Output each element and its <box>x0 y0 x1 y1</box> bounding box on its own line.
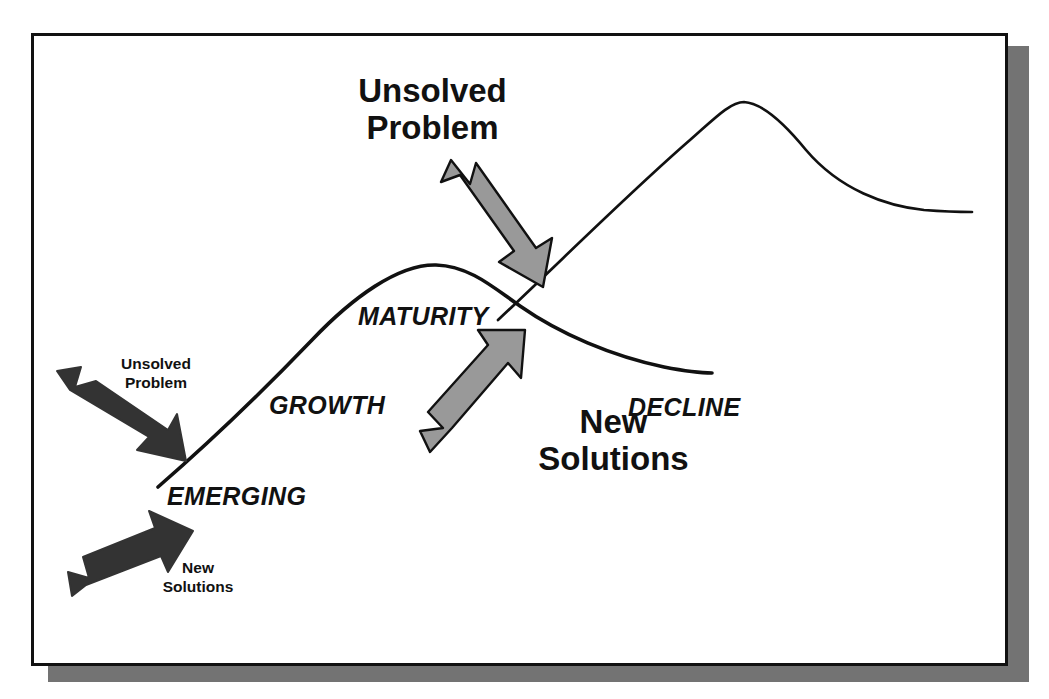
stage-label-decline: DECLINE <box>628 394 741 421</box>
callout-line-2: Solutions <box>138 578 258 597</box>
callout-new-solutions-bottom: New Solutions <box>138 559 258 596</box>
callout-line-2: Solutions <box>506 441 721 478</box>
callout-line-2: Problem <box>325 110 540 147</box>
callout-line-2: Problem <box>92 374 220 393</box>
callout-line-1: Unsolved <box>92 355 220 374</box>
callout-unsolved-problem-left: Unsolved Problem <box>92 355 220 392</box>
card-shadow-bottom <box>48 666 1029 682</box>
stage-label-emerging: EMERGING <box>167 483 306 510</box>
diagram-stage: Unsolved Problem New Solutions Unsolved … <box>0 0 1049 699</box>
callout-line-1: Unsolved <box>325 73 540 110</box>
callout-unsolved-problem-top: Unsolved Problem <box>325 73 540 147</box>
stage-label-growth: GROWTH <box>269 392 385 419</box>
card-shadow-right <box>1008 46 1029 682</box>
callout-line-1: New <box>138 559 258 578</box>
stage-label-maturity: MATURITY <box>358 303 489 330</box>
